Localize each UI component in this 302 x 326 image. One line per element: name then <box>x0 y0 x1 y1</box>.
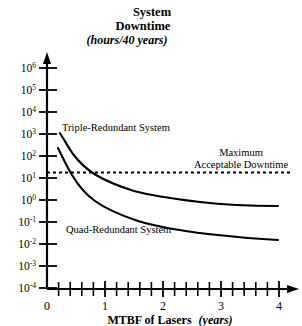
x-axis-tick-labels: 0 1 2 3 4 <box>44 299 282 313</box>
y-axis-arrowhead <box>43 52 51 64</box>
x-axis <box>47 285 299 293</box>
y-tick-label-1e3: 103 <box>21 127 37 141</box>
chart-figure: System Downtime (hours/40 years) <box>0 0 302 326</box>
y-tick-label-1e5: 105 <box>21 83 37 97</box>
chart-title-line1: System <box>133 5 172 19</box>
y-tick-label-1em2: 10-2 <box>18 237 36 251</box>
x-axis-title-main: MTBF of Lasers <box>107 313 192 326</box>
y-axis-tick-labels: 106 105 104 103 102 101 100 10-1 10-2 10… <box>18 61 36 295</box>
chart-title-units: (hours/40 years) <box>86 33 167 47</box>
x-tick-label-3: 3 <box>218 299 224 313</box>
x-tick-label-2: 2 <box>160 299 166 313</box>
y-tick-label-1e4: 104 <box>21 105 37 119</box>
y-axis <box>43 52 51 289</box>
y-tick-label-1e2: 102 <box>21 149 37 163</box>
x-axis-title: MTBF of Lasers (years) <box>107 313 232 326</box>
y-tick-label-1em4: 10-4 <box>18 281 36 295</box>
y-tick-label-1e6: 106 <box>21 61 37 75</box>
y-tick-label-1em3: 10-3 <box>18 259 36 273</box>
y-tick-label-1e0: 100 <box>21 193 37 207</box>
y-tick-label-1em1: 10-1 <box>18 215 36 229</box>
x-axis-arrowhead <box>287 285 299 293</box>
system-downtime-chart: System Downtime (hours/40 years) <box>0 0 302 326</box>
x-tick-label-0: 0 <box>44 299 50 313</box>
threshold-label-line1: Maximum <box>219 147 263 158</box>
series-label-quad-redundant: Quad-Redundant System <box>66 224 171 235</box>
x-tick-label-4: 4 <box>276 299 282 313</box>
chart-title-line2: Downtime <box>116 19 171 33</box>
y-tick-label-1e1: 101 <box>21 171 37 185</box>
x-tick-label-1: 1 <box>102 299 108 313</box>
threshold-label-line2: Acceptable Downtime <box>194 159 289 170</box>
series-label-triple-redundant: Triple-Redundant System <box>62 122 170 133</box>
x-axis-title-units: (years) <box>199 313 233 326</box>
